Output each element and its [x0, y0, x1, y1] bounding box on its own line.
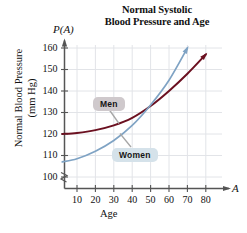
- data-curves: [62, 46, 207, 162]
- grid-lines: [66, 45, 223, 188]
- plot-canvas: [0, 0, 247, 233]
- curve-label-women: Women: [112, 148, 158, 162]
- y-axis-arrowhead: [62, 39, 67, 47]
- leader-line-women: [120, 134, 131, 148]
- curve-label-men: Men: [93, 97, 125, 111]
- chart-figure: Normal Systolic Blood Pressure and Age P…: [0, 0, 247, 233]
- curve-men: [62, 54, 206, 134]
- x-axis-arrowhead: [223, 186, 231, 191]
